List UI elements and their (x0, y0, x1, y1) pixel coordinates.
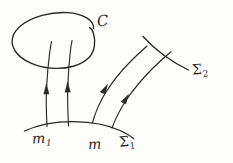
arrowhead-left-outer (65, 82, 70, 92)
arrowhead-left-inner (44, 84, 49, 94)
trajectory-left-outer (65, 41, 72, 127)
trajectory-right-outer (112, 52, 171, 128)
label-m1-subscript: 1 (46, 137, 52, 147)
label-surface-sigma2: Σ2 (192, 61, 208, 76)
label-sigma1-subscript: 1 (129, 140, 135, 150)
arrowhead-right-outer (121, 95, 129, 104)
label-closed-curve-C: C (96, 13, 109, 29)
label-point-m1: m1 (32, 131, 52, 146)
label-sigma2-base: Σ (191, 61, 202, 78)
label-m1-base: m (32, 130, 46, 147)
surface-sigma2-curve (143, 37, 189, 71)
label-sigma1-base: Σ (118, 133, 129, 150)
label-point-m: m (88, 137, 102, 152)
closed-loop-C (12, 12, 95, 68)
arrowhead-right-inner (100, 85, 107, 95)
trajectory-left-inner (44, 42, 52, 127)
label-sigma2-subscript: 2 (202, 68, 208, 78)
label-surface-sigma1: Σ1 (118, 133, 135, 148)
figure-canvas: C m1 m Σ1 Σ2 (0, 0, 233, 163)
